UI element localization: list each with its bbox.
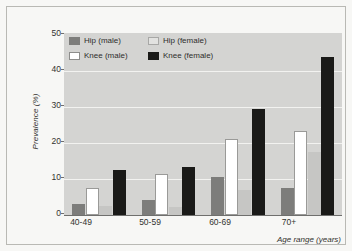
x-axis-title: Age range (years) bbox=[221, 235, 341, 244]
legend-swatch-hip-female-icon bbox=[148, 37, 159, 45]
legend-label-hip-female: Hip (female) bbox=[163, 37, 207, 45]
legend-swatch-hip-male-icon bbox=[69, 37, 80, 45]
legend-swatch-knee-male-icon bbox=[69, 52, 80, 60]
y-tick-label-50: 50 bbox=[35, 29, 61, 38]
y-axis-title: Prevalence (%) bbox=[31, 77, 40, 167]
y-tick-mark-40 bbox=[61, 69, 64, 70]
x-tick-label-60-69: 60-69 bbox=[190, 218, 250, 227]
legend-item-hip-male: Hip (male) bbox=[69, 37, 121, 45]
x-tick-label-40-49: 40-49 bbox=[51, 218, 111, 227]
y-tick-label-10: 10 bbox=[35, 173, 61, 182]
legend-label-hip-male: Hip (male) bbox=[84, 37, 121, 45]
legend-item-knee-female: Knee (female) bbox=[148, 52, 213, 60]
legend-label-knee-male: Knee (male) bbox=[84, 52, 128, 60]
x-tick-label-70plus: 70+ bbox=[259, 218, 319, 227]
y-axis-title-wrap: Prevalence (%) bbox=[21, 39, 41, 135]
y-tick-mark-0 bbox=[61, 213, 64, 214]
legend-item-knee-male: Knee (male) bbox=[69, 52, 128, 60]
x-tick-label-50-59: 50-59 bbox=[120, 218, 180, 227]
y-tick-mark-10 bbox=[61, 177, 64, 178]
chart-frame: 50 40 30 20 10 0 Prevalence (%) 40-49 50… bbox=[6, 6, 346, 245]
y-tick-mark-20 bbox=[61, 141, 64, 142]
y-tick-label-0: 0 bbox=[35, 209, 61, 218]
legend-label-knee-female: Knee (female) bbox=[163, 52, 213, 60]
y-tick-mark-30 bbox=[61, 105, 64, 106]
y-tick-mark-50 bbox=[61, 33, 64, 34]
chart-legend: Hip (male) Hip (female) Knee (male) Knee… bbox=[69, 37, 209, 65]
chart-figure: 50 40 30 20 10 0 Prevalence (%) 40-49 50… bbox=[0, 0, 352, 251]
legend-swatch-knee-female-icon bbox=[148, 52, 159, 60]
legend-item-hip-female: Hip (female) bbox=[148, 37, 207, 45]
